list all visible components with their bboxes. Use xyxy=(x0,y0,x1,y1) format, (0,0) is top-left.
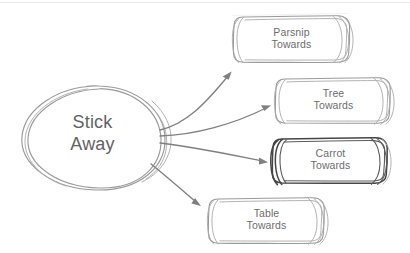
diagram-vector-layer: .sk { fill:none; stroke:#9a9a9a; stroke-… xyxy=(0,0,410,253)
node-shape-parsnip-towards[interactable] xyxy=(232,16,353,63)
arrow-to-parsnip xyxy=(160,72,232,130)
node-shape-carrot-towards[interactable] xyxy=(271,138,391,185)
node-shape-tree-towards[interactable] xyxy=(274,78,394,125)
arrow-to-table xyxy=(151,164,201,206)
top-rule xyxy=(0,3,410,16)
arrow-to-tree xyxy=(160,105,271,136)
node-shape-stick-away[interactable] xyxy=(22,86,171,190)
diagram-canvas: .sk { fill:none; stroke:#9a9a9a; stroke-… xyxy=(0,0,410,253)
arrow-to-carrot xyxy=(160,143,268,165)
node-shape-table-towards[interactable] xyxy=(207,198,328,245)
